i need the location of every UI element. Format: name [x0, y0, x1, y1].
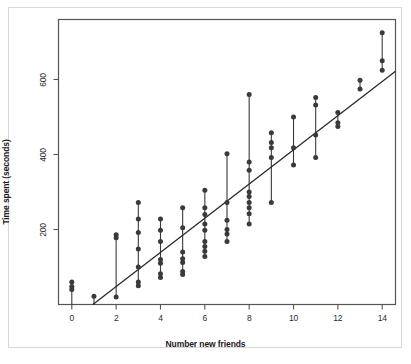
- data-point: [291, 115, 296, 120]
- data-point: [202, 228, 207, 233]
- data-point: [225, 232, 230, 237]
- x-tick-label: 12: [333, 313, 342, 323]
- data-point: [69, 280, 74, 285]
- data-point: [202, 212, 207, 217]
- chart-figure: 02468101214200400600 Number new friends …: [0, 0, 411, 364]
- x-axis-title: Number new friends: [166, 339, 246, 349]
- x-tick-label: 8: [247, 313, 252, 323]
- data-point: [313, 133, 318, 138]
- data-point: [158, 261, 163, 266]
- x-tick-label: 4: [158, 313, 163, 323]
- data-point: [380, 58, 385, 63]
- data-point: [358, 86, 363, 91]
- data-point: [313, 103, 318, 108]
- data-point: [269, 200, 274, 205]
- data-point: [247, 205, 252, 210]
- data-point: [269, 155, 274, 160]
- stem-lines: [72, 33, 382, 305]
- y-axis-title: Time spent (seconds): [1, 139, 11, 224]
- data-point: [247, 160, 252, 165]
- x-tick-label: 2: [114, 313, 119, 323]
- data-point: [136, 217, 141, 222]
- data-point: [269, 130, 274, 135]
- data-point: [202, 188, 207, 193]
- data-point: [335, 124, 340, 129]
- data-point: [225, 239, 230, 244]
- data-point: [136, 283, 141, 288]
- data-point: [69, 287, 74, 292]
- data-point: [225, 200, 230, 205]
- data-point: [358, 78, 363, 83]
- data-point: [136, 230, 141, 235]
- data-point: [114, 235, 119, 240]
- x-tick-label: 0: [70, 313, 75, 323]
- data-point: [136, 200, 141, 205]
- data-point: [380, 30, 385, 35]
- data-point: [225, 227, 230, 232]
- data-point: [202, 244, 207, 249]
- data-point: [158, 275, 163, 280]
- data-point: [380, 68, 385, 73]
- scatter-plot-canvas: [0, 0, 411, 364]
- data-point: [247, 221, 252, 226]
- data-point: [335, 110, 340, 115]
- data-point: [202, 249, 207, 254]
- data-point: [91, 294, 96, 299]
- data-point: [247, 168, 252, 173]
- axis-ticks: [54, 80, 383, 310]
- data-point: [269, 145, 274, 150]
- data-point: [269, 140, 274, 145]
- data-point: [247, 194, 252, 199]
- data-point: [291, 163, 296, 168]
- data-point: [247, 190, 252, 195]
- data-point: [180, 250, 185, 255]
- data-point: [225, 151, 230, 156]
- data-point: [158, 228, 163, 233]
- data-point: [247, 200, 252, 205]
- y-tick-label: 400: [38, 148, 48, 162]
- x-tick-label: 14: [378, 313, 387, 323]
- data-point: [136, 265, 141, 270]
- regression-line: [93, 71, 396, 304]
- data-point: [247, 211, 252, 216]
- fit-line-segment: [93, 71, 396, 304]
- data-point: [180, 272, 185, 277]
- x-tick-label: 6: [203, 313, 208, 323]
- data-point: [158, 217, 163, 222]
- data-point: [180, 205, 185, 210]
- data-point: [247, 92, 252, 97]
- y-tick-label: 600: [38, 73, 48, 87]
- data-point: [202, 239, 207, 244]
- data-point: [291, 145, 296, 150]
- data-point: [202, 205, 207, 210]
- y-tick-label: 200: [38, 223, 48, 237]
- data-point: [180, 225, 185, 230]
- x-tick-label: 10: [289, 313, 298, 323]
- data-point: [313, 95, 318, 100]
- data-point: [158, 239, 163, 244]
- data-point: [202, 254, 207, 259]
- data-point: [225, 218, 230, 223]
- data-point: [202, 221, 207, 226]
- data-point: [114, 295, 119, 300]
- data-point: [313, 155, 318, 160]
- data-point: [180, 260, 185, 265]
- data-point: [136, 247, 141, 252]
